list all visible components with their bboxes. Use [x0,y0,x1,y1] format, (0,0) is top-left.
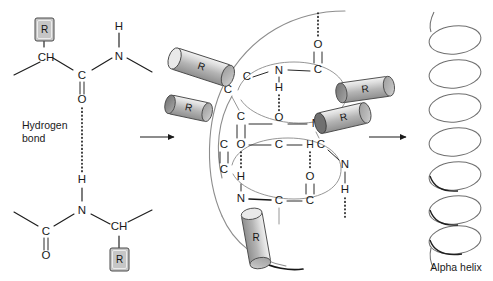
panel-center-helix-turn: C N C O H O C C N O C [163,11,396,270]
r-group-label-5: R [252,232,259,243]
center-atom-o-4: C [220,163,228,175]
atom-alpha-carbon-bottom: CH [111,220,128,232]
r-group-cylinder-2: R [163,94,214,123]
center-atom-n-1: N [275,64,283,76]
atom-amide-hydrogen-bottom: H [78,173,86,185]
center-atom-c-4: C [237,110,245,122]
atom-carbonyl-carbon-top: C [78,69,86,81]
center-atom-n-3: N [341,158,349,170]
r-group-label-bottom: R [116,254,123,265]
center-atom-n-4: N [237,192,245,204]
center-atom-c-9: C [306,194,314,206]
helix-coil-front-arcs [430,176,462,254]
atom-amide-nitrogen-top: N [115,50,123,62]
atom-amide-hydrogen-top: H [115,20,123,32]
r-group-label-top: R [41,24,48,35]
alpha-helix-caption: Alpha helix [430,261,482,273]
center-atom-c-2: C [314,63,322,75]
top-chain-bonds [14,33,152,94]
center-atom-h-1: H [275,81,283,93]
atom-amide-nitrogen-bottom: N [78,204,86,216]
center-atom-h-2: H [306,138,314,150]
helix-coil-turns [428,23,483,256]
center-atom-o-5: O [306,170,315,182]
center-atom-o-3: O [237,138,246,150]
center-atom-o-2: O [275,111,284,123]
bottom-chain-bonds [14,188,152,250]
center-atom-o-1: O [314,38,323,50]
r-group-cylinder-5: R [240,207,271,271]
center-atom-h-4: H [341,183,349,195]
atom-carbonyl-oxygen-bottom: O [42,249,51,261]
center-atom-h-3: H [237,170,245,182]
r-group-cylinder-3: R [335,76,396,104]
atom-alpha-carbon-top: CH [38,51,55,63]
r-group-cylinder-1: R [165,46,236,88]
hydrogen-bond-label-line1: Hydrogen [22,119,68,131]
panel-right-alpha-helix: Alpha helix [428,12,483,273]
center-atom-c-1: C [243,70,251,82]
atom-carbonyl-oxygen-top: O [78,93,87,105]
center-atom-c-7: C [220,138,228,150]
hydrogen-bond-label-line2: bond [22,132,46,144]
r-group-box-bottom: R [110,248,129,271]
figure-canvas: R CH C O N H Hydrogen bond H N C O CH [0,0,493,281]
r-group-label-3: R [361,83,370,95]
r-group-box-top: R [35,18,54,41]
alpha-helix-figure: R CH C O N H Hydrogen bond H N C O CH [0,0,493,281]
center-atom-c-8: C [275,194,283,206]
panel-left-hydrogen-bond: R CH C O N H Hydrogen bond H N C O CH [14,18,152,271]
center-atom-c-6: C [317,138,325,150]
atom-carbonyl-carbon-bottom: C [42,225,50,237]
center-atom-c-5: C [275,138,283,150]
